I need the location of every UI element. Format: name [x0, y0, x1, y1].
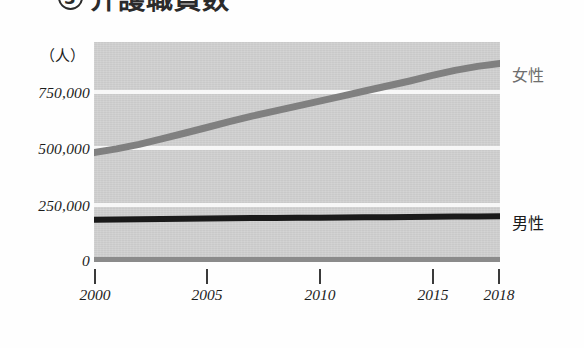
x-tick-label-2005: 2005: [192, 286, 223, 304]
line-series-female: [94, 63, 500, 152]
x-tick-label-2010: 2010: [305, 286, 336, 304]
line-series-male: [94, 216, 500, 220]
x-tick-2015: [432, 269, 434, 284]
y-tick-label-250000: 250,000: [2, 197, 90, 215]
chart-figure: 3 介護職員数 （人） 750,000 500,000 250,000 0 20…: [0, 0, 584, 348]
chart-title-strip: 3 介護職員数: [0, 0, 584, 16]
x-tick-2010: [319, 269, 321, 284]
y-tick-label-0: 0: [2, 252, 90, 270]
x-tick-2000: [94, 269, 96, 284]
x-tick-label-2015: 2015: [418, 286, 449, 304]
x-tick-label-2018: 2018: [484, 286, 515, 304]
series-label-female: 女性: [512, 62, 544, 86]
title-text: 介護職員数: [90, 0, 230, 16]
series-plot: [94, 42, 500, 262]
y-tick-label-500000: 500,000: [2, 140, 90, 158]
x-tick-2018: [498, 269, 500, 284]
series-label-male: 男性: [512, 210, 544, 234]
plot-area: [94, 42, 500, 262]
y-tick-label-750000: 750,000: [2, 84, 90, 102]
x-axis: 2000 2005 2010 2015 2018: [94, 262, 500, 322]
title-circle-number: 3: [58, 0, 83, 10]
y-axis-labels: 750,000 500,000 250,000 0: [0, 42, 90, 262]
x-tick-2005: [206, 269, 208, 284]
chart-title: 3 介護職員数: [58, 0, 230, 16]
x-tick-label-2000: 2000: [80, 286, 111, 304]
gridline-zero: [94, 257, 500, 262]
